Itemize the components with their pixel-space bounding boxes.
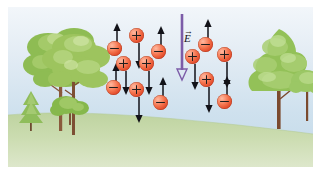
minus-sign-icon [217,94,232,109]
plus-sign-icon [217,47,232,62]
plus-sign-icon [116,56,131,71]
electric-field-arrow [174,14,190,82]
charge-plus-c11 [217,47,232,62]
figure-root: →E [0,0,323,176]
charge-plus-c12 [199,72,214,87]
tree-shrub-left [50,93,90,125]
plus-sign-icon [129,82,144,97]
charge-minus-c9 [198,37,213,52]
charge-minus-c6 [106,80,121,95]
charge-minus-c8 [153,95,168,110]
motion-arrow-down-c11 [223,62,231,88]
illustration-plate: →E [8,7,313,167]
efield-letter: E [184,32,191,44]
plus-sign-icon [129,28,144,43]
plus-sign-icon [199,72,214,87]
charge-plus-c4 [116,56,131,71]
electric-field-label: →E [184,29,192,44]
minus-sign-icon [198,37,213,52]
charge-plus-c5 [139,56,154,71]
charge-plus-c7 [129,82,144,97]
tree-small-conifer [16,89,46,131]
minus-sign-icon [106,80,121,95]
minus-sign-icon [153,95,168,110]
motion-arrow-down-c7 [135,97,143,123]
plus-sign-icon [139,56,154,71]
charge-minus-c1 [107,41,122,56]
tree-small-right [290,67,313,121]
motion-arrow-down-c10 [191,64,199,90]
charge-plus-c2 [129,28,144,43]
minus-sign-icon [107,41,122,56]
charge-minus-c13 [217,94,232,109]
motion-arrow-down-c5 [145,71,153,95]
motion-arrow-down-c12 [205,87,213,113]
